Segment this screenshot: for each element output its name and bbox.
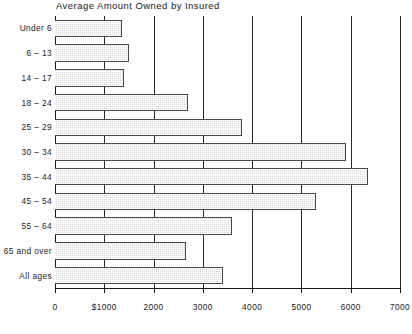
category-label: 55 – 64 — [0, 221, 52, 231]
x-tick-label: 3000 — [193, 302, 213, 312]
category-label: 45 – 54 — [0, 196, 52, 206]
bar-row — [55, 263, 400, 288]
x-tick-label: 2000 — [144, 302, 164, 312]
x-tick-mark — [55, 288, 56, 293]
bar — [55, 242, 186, 260]
x-tick-label: 5000 — [291, 302, 311, 312]
x-tick-label: 7000 — [390, 302, 410, 312]
bar-row — [55, 214, 400, 239]
bar — [55, 267, 223, 285]
gridline-7000 — [400, 16, 401, 288]
category-label: 35 – 44 — [0, 172, 52, 182]
bar-chart: Average Amount Owned by Insured Under 66… — [0, 0, 412, 334]
x-tick-label: $1000 — [92, 302, 117, 312]
plot-area — [55, 16, 400, 288]
bar — [55, 193, 316, 211]
bar — [55, 143, 346, 161]
bar-row — [55, 239, 400, 264]
x-tick-label: 4000 — [242, 302, 262, 312]
bar-row — [55, 189, 400, 214]
bar-row — [55, 41, 400, 66]
x-axis-ticks: 0$1000200030004000500060007000 — [55, 288, 401, 318]
x-tick-mark — [301, 288, 302, 293]
category-label: 65 and over — [0, 246, 52, 256]
bar — [55, 44, 129, 62]
x-tick-mark — [252, 288, 253, 293]
bar — [55, 168, 368, 186]
bar — [55, 69, 124, 87]
x-tick-mark — [154, 288, 155, 293]
bar-row — [55, 164, 400, 189]
category-label: 6 – 13 — [0, 48, 52, 58]
bar — [55, 94, 188, 112]
category-label: 14 – 17 — [0, 73, 52, 83]
category-label: 30 – 34 — [0, 147, 52, 157]
x-tick-mark — [104, 288, 105, 293]
bar-row — [55, 140, 400, 165]
category-label: 18 – 24 — [0, 98, 52, 108]
bar-row — [55, 65, 400, 90]
bar-row — [55, 90, 400, 115]
x-tick-mark — [203, 288, 204, 293]
category-label: All ages — [0, 271, 52, 281]
category-label: Under 6 — [0, 23, 52, 33]
x-tick-mark — [351, 288, 352, 293]
bar — [55, 217, 232, 235]
x-tick-label: 0 — [52, 302, 57, 312]
bar — [55, 20, 122, 38]
x-tick-label: 6000 — [341, 302, 361, 312]
bar-row — [55, 115, 400, 140]
bar-row — [55, 16, 400, 41]
category-label: 25 – 29 — [0, 122, 52, 132]
bar — [55, 119, 242, 137]
x-tick-mark — [400, 288, 401, 293]
category-axis-labels: Under 66 – 1314 – 1718 – 2425 – 2930 – 3… — [0, 16, 52, 288]
chart-title: Average Amount Owned by Insured — [56, 0, 220, 11]
